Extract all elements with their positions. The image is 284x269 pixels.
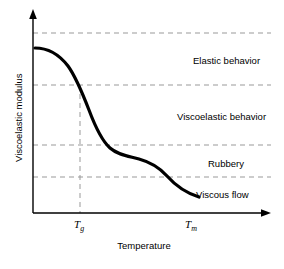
- modulus-curve: [35, 48, 199, 197]
- region-label-viscoelastic-behavior: Viscoelastic behavior: [177, 112, 266, 122]
- y-axis: [29, 9, 37, 213]
- viscoelastic-modulus-chart: Viscoelastic modulus Temperature Tg Tm E…: [0, 0, 284, 269]
- x-tick-label-tg: Tg: [74, 219, 84, 233]
- tick-tm-subscript: m: [191, 224, 197, 233]
- x-axis: [33, 209, 271, 217]
- y-axis-arrowhead: [29, 9, 37, 19]
- x-axis-title: Temperature: [84, 241, 204, 251]
- region-label-elastic-behavior: Elastic behavior: [193, 56, 260, 66]
- region-label-rubbery: Rubbery: [208, 159, 244, 169]
- region-label-viscous-flow: Viscous flow: [196, 190, 249, 200]
- tick-tg-subscript: g: [80, 224, 84, 233]
- x-tick-label-tm: Tm: [185, 219, 197, 233]
- x-axis-arrowhead: [261, 209, 271, 217]
- chart-canvas: [0, 0, 284, 269]
- y-axis-title: Viscoelastic modulus: [14, 53, 24, 183]
